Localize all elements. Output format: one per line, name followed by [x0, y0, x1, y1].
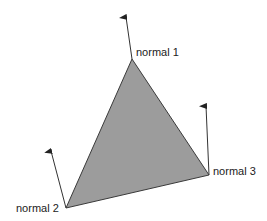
normal-1-label: normal 1: [136, 46, 179, 58]
normal-1-arrow: [126, 17, 132, 59]
triangle-normals-diagram: normal 1 normal 2 normal 3: [0, 0, 267, 221]
normal-3-label: normal 3: [213, 165, 256, 177]
normal-2-arrow: [51, 151, 66, 208]
normal-3-arrow: [206, 106, 209, 175]
normal-2-label: normal 2: [16, 202, 59, 214]
triangle-face: [66, 59, 209, 208]
